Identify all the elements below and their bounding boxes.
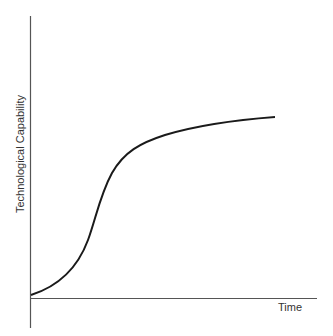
y-axis-label: Technological Capability [14,95,26,213]
chart-canvas [0,0,333,336]
x-axis-label: Time [278,301,302,313]
s-curve-line [31,117,275,295]
